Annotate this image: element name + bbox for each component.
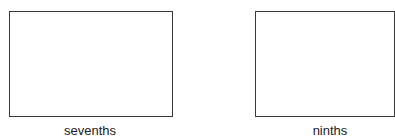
sevenths-rectangle <box>9 11 173 117</box>
ninths-label: ninths <box>280 124 380 138</box>
sevenths-label: sevenths <box>40 124 140 138</box>
ninths-rectangle <box>255 11 395 117</box>
